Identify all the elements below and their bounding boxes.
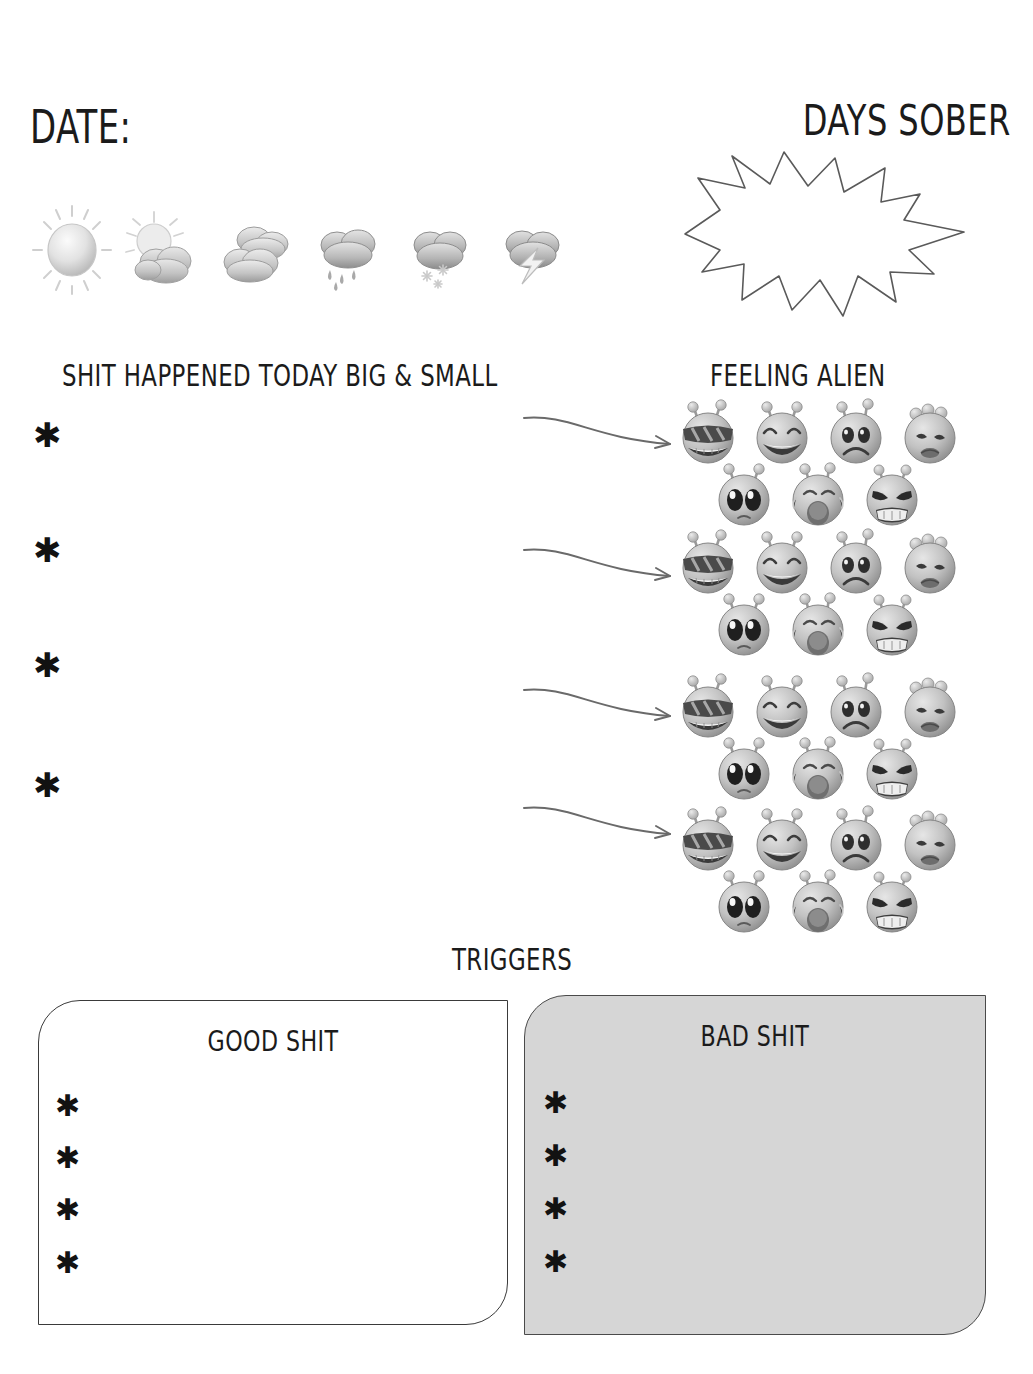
alien-crying-icon[interactable] <box>708 590 780 662</box>
cloudy-icon[interactable] <box>212 200 300 296</box>
mood-selector-group[interactable] <box>672 528 972 658</box>
curved-arrow-icon <box>520 400 690 460</box>
event-bullet[interactable]: ✱ <box>33 533 62 567</box>
bad-shit-bullet[interactable]: ✱ <box>543 1141 568 1171</box>
mood-selector-group[interactable] <box>672 398 972 528</box>
date-label: Date: <box>30 104 131 150</box>
good-shit-bullet[interactable]: ✱ <box>55 1248 80 1278</box>
alien-wailing-icon[interactable] <box>782 460 854 532</box>
days-sober-label: Days Sober <box>803 100 1011 142</box>
snow-icon[interactable] <box>396 200 484 296</box>
triggers-section-title: Triggers <box>452 944 572 975</box>
events-section-title: Shit Happened Today Big & Small <box>62 360 498 391</box>
good-shit-box[interactable]: Good shit ✱ ✱ ✱ ✱ <box>38 1000 508 1325</box>
good-shit-bullet[interactable]: ✱ <box>55 1091 80 1121</box>
alien-angry-icon[interactable] <box>856 734 928 806</box>
bad-shit-title-text: Bad Shit <box>701 1022 810 1051</box>
bad-shit-title: Bad Shit <box>525 1022 985 1051</box>
curved-arrow-icon <box>520 672 690 732</box>
alien-angry-icon[interactable] <box>856 867 928 939</box>
bad-shit-bullet[interactable]: ✱ <box>543 1194 568 1224</box>
good-shit-bullet[interactable]: ✱ <box>55 1143 80 1173</box>
good-shit-bullet[interactable]: ✱ <box>55 1195 80 1225</box>
alien-wailing-icon[interactable] <box>782 590 854 662</box>
event-bullet[interactable]: ✱ <box>33 648 62 682</box>
rain-icon[interactable] <box>304 200 392 296</box>
weather-selector-row[interactable] <box>28 196 568 296</box>
bad-shit-box[interactable]: Bad Shit ✱ ✱ ✱ ✱ <box>524 995 986 1335</box>
mood-row-bottom[interactable] <box>708 734 928 806</box>
alien-wailing-icon[interactable] <box>782 867 854 939</box>
bad-shit-bullet[interactable]: ✱ <box>543 1247 568 1277</box>
mood-row-bottom[interactable] <box>708 867 928 939</box>
sunny-icon[interactable] <box>28 200 116 296</box>
good-shit-title-text: Good shit <box>208 1027 339 1056</box>
worksheet-page: Date: <box>0 0 1033 1374</box>
alien-wailing-icon[interactable] <box>782 734 854 806</box>
alien-crying-icon[interactable] <box>708 460 780 532</box>
days-sober-burst-input[interactable] <box>672 150 972 320</box>
event-bullet[interactable]: ✱ <box>33 418 62 452</box>
good-shit-title: Good shit <box>39 1027 507 1056</box>
event-bullet[interactable]: ✱ <box>33 768 62 802</box>
mood-selector-group[interactable] <box>672 672 972 802</box>
alien-angry-icon[interactable] <box>856 460 928 532</box>
alien-angry-icon[interactable] <box>856 590 928 662</box>
alien-crying-icon[interactable] <box>708 867 780 939</box>
thunderstorm-icon[interactable] <box>488 200 576 296</box>
bad-shit-bullet[interactable]: ✱ <box>543 1088 568 1118</box>
mood-selector-group[interactable] <box>672 805 972 935</box>
curved-arrow-icon <box>520 532 690 592</box>
curved-arrow-icon <box>520 790 690 850</box>
partly-cloudy-icon[interactable] <box>120 200 208 296</box>
alien-crying-icon[interactable] <box>708 734 780 806</box>
mood-row-bottom[interactable] <box>708 460 928 532</box>
mood-row-bottom[interactable] <box>708 590 928 662</box>
moods-section-title: Feeling alien <box>710 360 886 391</box>
